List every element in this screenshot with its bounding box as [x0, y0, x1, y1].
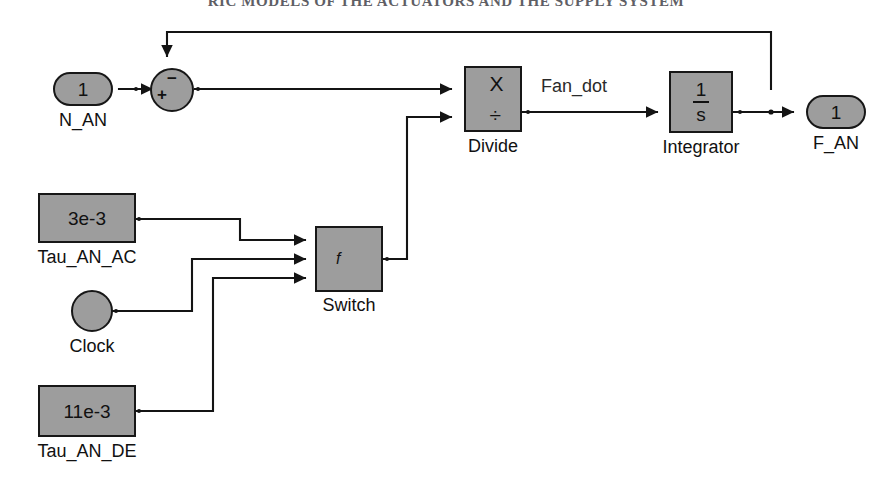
constant-block-tau-an-de[interactable]: 11e-3 [38, 385, 136, 437]
switch-block[interactable] [315, 226, 383, 292]
wire-tauande-to-switch [136, 278, 305, 411]
integrator-block-label: Integrator [641, 137, 761, 158]
wire-switch-to-divide [383, 117, 451, 259]
divide-op-divide: ÷ [489, 104, 501, 125]
output-port-number: 1 [831, 103, 842, 122]
clock-block[interactable] [71, 290, 113, 332]
divide-op-multiply: X [489, 73, 503, 94]
switch-block-label: Switch [299, 295, 399, 316]
clock-block-label: Clock [42, 336, 142, 357]
output-port-fan[interactable]: 1 [806, 95, 866, 129]
divide-block[interactable]: X ÷ [464, 66, 522, 132]
divide-icon: X ÷ [482, 68, 503, 130]
input-port-number: 1 [78, 80, 89, 99]
input-port-nan[interactable]: 1 [53, 72, 113, 106]
integrator-denominator: s [696, 105, 706, 124]
switch-criteria-symbol: f [336, 250, 340, 268]
sum-plus-sign: + [157, 86, 167, 103]
constant-value-tau-an-de: 11e-3 [63, 402, 110, 421]
constant-label-tau-an-de: Tau_AN_DE [25, 441, 149, 462]
constant-block-tau-an-ac[interactable]: 3e-3 [38, 193, 136, 243]
diagram-canvas: RIC MODELS OF THE ACTUATORS AND THE SUPP… [0, 0, 892, 494]
divide-block-label: Divide [443, 136, 543, 157]
integrator-icon: 1 s [693, 80, 709, 124]
wire-tauanac-to-switch [136, 219, 305, 240]
integrator-numerator: 1 [696, 80, 707, 99]
sum-minus-sign: − [167, 70, 177, 87]
constant-label-tau-an-ac: Tau_AN_AC [25, 247, 149, 268]
input-port-label: N_AN [33, 110, 133, 131]
signal-label-fan-dot: Fan_dot [541, 76, 607, 97]
output-port-label: F_AN [786, 133, 886, 154]
integrator-block[interactable]: 1 s [669, 71, 733, 133]
constant-value-tau-an-ac: 3e-3 [68, 209, 106, 228]
integrator-fraction-bar [693, 101, 709, 103]
